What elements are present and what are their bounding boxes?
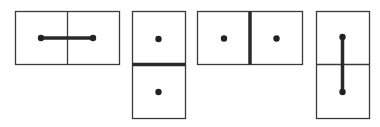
panel-horizontal-walled: [198, 12, 303, 65]
panel-horizontal-connected: [16, 12, 120, 65]
panel-vertical-connected: [317, 12, 370, 119]
dot-bottom: [155, 89, 161, 95]
dot-top: [155, 36, 161, 42]
dot-left: [38, 35, 44, 41]
dot-left: [221, 35, 227, 41]
panel-vertical-walled: [133, 12, 186, 119]
dot-right: [273, 35, 279, 41]
dot-bottom: [339, 89, 345, 95]
dot-top: [339, 34, 345, 40]
dot-right: [90, 35, 96, 41]
diagram-canvas: [0, 0, 380, 127]
